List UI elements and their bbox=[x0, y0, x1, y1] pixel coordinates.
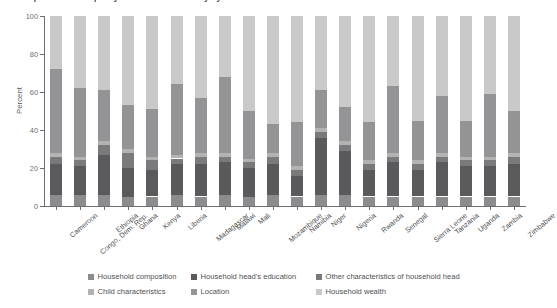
bar-segment[interactable] bbox=[219, 16, 231, 77]
bar-segment[interactable] bbox=[387, 153, 399, 157]
bar-segment[interactable] bbox=[98, 141, 110, 145]
bar-stack[interactable] bbox=[243, 16, 255, 206]
bar-segment[interactable] bbox=[122, 197, 134, 207]
bar-segment[interactable] bbox=[412, 160, 424, 164]
legend-item[interactable]: Household wealth bbox=[316, 287, 386, 296]
bar-stack[interactable] bbox=[146, 16, 158, 206]
bar-segment[interactable] bbox=[339, 16, 351, 107]
bar-segment[interactable] bbox=[484, 197, 496, 207]
bar-segment[interactable] bbox=[195, 164, 207, 196]
bar-segment[interactable] bbox=[243, 168, 255, 197]
bar-segment[interactable] bbox=[267, 195, 279, 206]
bar-segment[interactable] bbox=[387, 16, 399, 86]
legend-item[interactable]: Child characteristics bbox=[88, 287, 165, 296]
bar-segment[interactable] bbox=[508, 111, 520, 153]
bar-segment[interactable] bbox=[412, 170, 424, 197]
bar-stack[interactable] bbox=[484, 16, 496, 206]
bar-segment[interactable] bbox=[267, 124, 279, 153]
bar-segment[interactable] bbox=[508, 153, 520, 157]
bar-segment[interactable] bbox=[412, 164, 424, 170]
bar-segment[interactable] bbox=[339, 141, 351, 145]
bar-segment[interactable] bbox=[171, 164, 183, 194]
bar-segment[interactable] bbox=[219, 162, 231, 194]
bar-segment[interactable] bbox=[122, 153, 134, 168]
bar-segment[interactable] bbox=[508, 157, 520, 165]
bar-segment[interactable] bbox=[387, 197, 399, 207]
bar-segment[interactable] bbox=[74, 195, 86, 206]
bar-segment[interactable] bbox=[74, 16, 86, 88]
bar-segment[interactable] bbox=[291, 176, 303, 197]
bar-segment[interactable] bbox=[146, 170, 158, 197]
bar-segment[interactable] bbox=[436, 16, 448, 96]
bar-segment[interactable] bbox=[219, 153, 231, 157]
bar-segment[interactable] bbox=[195, 197, 207, 207]
bar-stack[interactable] bbox=[122, 16, 134, 206]
bar-segment[interactable] bbox=[50, 153, 62, 157]
bar-segment[interactable] bbox=[436, 197, 448, 207]
bar-segment[interactable] bbox=[146, 109, 158, 157]
bar-segment[interactable] bbox=[146, 16, 158, 109]
bar-segment[interactable] bbox=[412, 197, 424, 207]
bar-segment[interactable] bbox=[122, 168, 134, 197]
bar-segment[interactable] bbox=[460, 157, 472, 161]
bar-segment[interactable] bbox=[98, 155, 110, 195]
bar-stack[interactable] bbox=[50, 16, 62, 206]
bar-segment[interactable] bbox=[171, 195, 183, 206]
bar-stack[interactable] bbox=[195, 16, 207, 206]
bar-segment[interactable] bbox=[315, 195, 327, 206]
bar-segment[interactable] bbox=[122, 105, 134, 149]
bar-segment[interactable] bbox=[315, 132, 327, 138]
bar-segment[interactable] bbox=[460, 121, 472, 157]
bar-stack[interactable] bbox=[267, 16, 279, 206]
bar-segment[interactable] bbox=[460, 160, 472, 166]
bar-segment[interactable] bbox=[146, 160, 158, 170]
bar-stack[interactable] bbox=[436, 16, 448, 206]
legend-item[interactable]: Household composition bbox=[88, 272, 176, 281]
bar-segment[interactable] bbox=[50, 16, 62, 69]
bar-segment[interactable] bbox=[98, 16, 110, 90]
bar-segment[interactable] bbox=[339, 151, 351, 195]
bar-segment[interactable] bbox=[363, 197, 375, 207]
bar-segment[interactable] bbox=[339, 195, 351, 206]
bar-segment[interactable] bbox=[484, 94, 496, 157]
bar-stack[interactable] bbox=[98, 16, 110, 206]
bar-stack[interactable] bbox=[291, 16, 303, 206]
bar-stack[interactable] bbox=[171, 16, 183, 206]
bar-segment[interactable] bbox=[146, 197, 158, 207]
bar-segment[interactable] bbox=[484, 160, 496, 166]
bar-segment[interactable] bbox=[122, 16, 134, 105]
legend-item[interactable]: Other characteristics of household head bbox=[316, 272, 460, 281]
bar-segment[interactable] bbox=[146, 157, 158, 161]
bar-segment[interactable] bbox=[363, 170, 375, 197]
bar-segment[interactable] bbox=[50, 69, 62, 153]
bar-segment[interactable] bbox=[291, 122, 303, 166]
bar-stack[interactable] bbox=[219, 16, 231, 206]
bar-segment[interactable] bbox=[387, 157, 399, 163]
legend-item[interactable]: Household head's education bbox=[191, 272, 296, 281]
bar-segment[interactable] bbox=[171, 84, 183, 154]
bar-segment[interactable] bbox=[315, 138, 327, 195]
bar-segment[interactable] bbox=[460, 166, 472, 196]
bar-segment[interactable] bbox=[436, 153, 448, 157]
bar-segment[interactable] bbox=[315, 90, 327, 128]
bar-segment[interactable] bbox=[412, 121, 424, 161]
bar-segment[interactable] bbox=[74, 157, 86, 161]
bar-segment[interactable] bbox=[291, 197, 303, 207]
bar-segment[interactable] bbox=[436, 162, 448, 196]
bar-segment[interactable] bbox=[339, 107, 351, 141]
bar-segment[interactable] bbox=[243, 16, 255, 111]
bar-segment[interactable] bbox=[195, 153, 207, 157]
bar-segment[interactable] bbox=[74, 166, 86, 195]
bar-segment[interactable] bbox=[508, 16, 520, 111]
bar-segment[interactable] bbox=[363, 160, 375, 164]
bar-stack[interactable] bbox=[363, 16, 375, 206]
bar-stack[interactable] bbox=[315, 16, 327, 206]
bar-segment[interactable] bbox=[243, 111, 255, 159]
bar-segment[interactable] bbox=[460, 16, 472, 121]
bar-segment[interactable] bbox=[267, 157, 279, 165]
bar-segment[interactable] bbox=[291, 16, 303, 122]
bar-segment[interactable] bbox=[291, 170, 303, 176]
bar-segment[interactable] bbox=[291, 166, 303, 170]
bar-segment[interactable] bbox=[50, 157, 62, 165]
bar-segment[interactable] bbox=[315, 16, 327, 90]
